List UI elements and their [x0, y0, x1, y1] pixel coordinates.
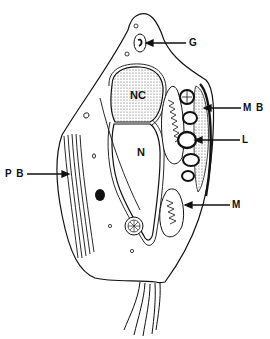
label-membrane-bound: M B: [243, 103, 264, 113]
lipid-droplet: [183, 154, 199, 166]
label-paracrystalline-body: P B: [5, 169, 25, 179]
label-lipid: L: [242, 135, 249, 145]
label-golgi: G: [189, 38, 198, 48]
cell-diagram: G M B L P B M NC N: [0, 0, 270, 339]
cell-drawing: [0, 0, 270, 339]
label-mitochondrion: M: [232, 200, 241, 210]
dense-granule: [95, 189, 105, 201]
label-nucleus: N: [137, 147, 145, 158]
lipid-droplet: [178, 132, 196, 148]
lipid-droplet: [183, 112, 197, 124]
mitochondrion-lower: [160, 189, 184, 237]
golgi-body: [134, 34, 146, 52]
label-nucleolus: NC: [130, 90, 146, 101]
